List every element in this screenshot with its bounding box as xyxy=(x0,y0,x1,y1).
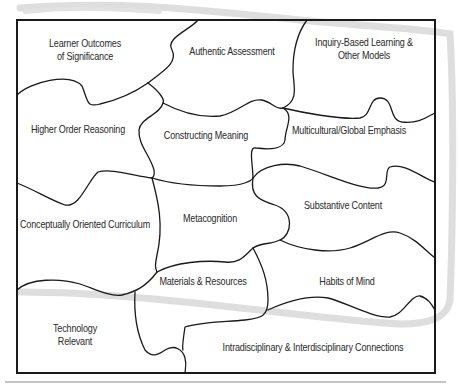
piece-label-line1: Multicultural/Global Emphasis xyxy=(292,124,406,137)
piece-metacognition: Metacognition xyxy=(183,212,237,225)
piece-label-line1: Habits of Mind xyxy=(319,275,374,288)
piece-label-line2: Relevant xyxy=(53,335,97,348)
piece-substantive-content: Substantive Content xyxy=(304,199,382,212)
piece-label-line1: Learner Outcomes xyxy=(49,37,121,50)
piece-habits-of-mind: Habits of Mind xyxy=(319,275,374,288)
piece-label-line1: Substantive Content xyxy=(304,199,382,212)
piece-authentic-assessment: Authentic Assessment xyxy=(189,45,274,58)
piece-label-line1: Inquiry-Based Learning & xyxy=(315,36,413,49)
piece-label-line1: Metacognition xyxy=(183,212,237,225)
piece-label-line1: Higher Order Reasoning xyxy=(31,123,125,136)
puzzle-diagram: Learner Outcomes of Significance Authent… xyxy=(0,0,460,387)
piece-multicultural: Multicultural/Global Emphasis xyxy=(292,124,406,137)
piece-constructing-meaning: Constructing Meaning xyxy=(164,129,248,142)
piece-learner-outcomes: Learner Outcomes of Significance xyxy=(49,37,121,63)
piece-label-line1: Authentic Assessment xyxy=(189,45,274,58)
piece-label-line1: Constructing Meaning xyxy=(164,129,248,142)
piece-intra-interdisciplinary: Intradisciplinary & Interdisciplinary Co… xyxy=(223,341,404,354)
piece-label-line1: Intradisciplinary & Interdisciplinary Co… xyxy=(223,341,404,354)
piece-label-line2: Other Models xyxy=(315,49,413,62)
piece-technology-relevant: Technology Relevant xyxy=(53,322,97,348)
piece-higher-order: Higher Order Reasoning xyxy=(31,123,125,136)
piece-label-line1: Conceptually Oriented Curriculum xyxy=(20,218,150,231)
piece-materials-resources: Materials & Resources xyxy=(159,275,246,288)
piece-inquiry-based: Inquiry-Based Learning & Other Models xyxy=(315,36,413,62)
piece-conceptually-oriented: Conceptually Oriented Curriculum xyxy=(20,218,150,231)
piece-label-line2: of Significance xyxy=(49,50,121,63)
piece-label-line1: Technology xyxy=(53,322,97,335)
piece-label-line1: Materials & Resources xyxy=(159,275,246,288)
